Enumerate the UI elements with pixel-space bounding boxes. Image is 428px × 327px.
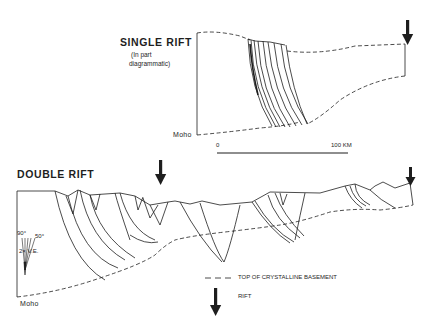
- angle-50-label: 50°: [35, 233, 44, 239]
- double-rift-section: [17, 182, 413, 297]
- scale-bar-end-label: 100 KM: [331, 142, 352, 148]
- angle-90-label: 90°: [17, 230, 26, 236]
- diagram-linework: [0, 0, 428, 327]
- rift-arrow-double-right: [406, 167, 416, 186]
- single-rift-note-line2: diagrammatic): [129, 59, 170, 69]
- legend-rift-arrow-symbol: [210, 288, 221, 316]
- rift-arrow-double-left: [155, 160, 166, 185]
- rift-cross-section-figure: SINGLE RIFT (In part diagrammatic) Moho …: [0, 0, 428, 327]
- vertical-exaggeration-label: 2× V.E.: [19, 248, 38, 254]
- single-rift-section: [197, 32, 405, 135]
- legend-rift-label: RIFT: [238, 293, 251, 299]
- double-rift-moho-label: Moho: [20, 300, 39, 307]
- legend-basement-label: TOP OF CRYSTALLINE BASEMENT: [238, 274, 337, 280]
- double-rift-title: DOUBLE RIFT: [17, 168, 94, 180]
- rift-arrow-single: [402, 20, 413, 45]
- scale-bar-start-label: 0: [216, 142, 219, 148]
- dip-angle-fan: [22, 238, 35, 275]
- single-rift-title: SINGLE RIFT: [120, 36, 192, 48]
- single-rift-moho-label: Moho: [173, 131, 192, 138]
